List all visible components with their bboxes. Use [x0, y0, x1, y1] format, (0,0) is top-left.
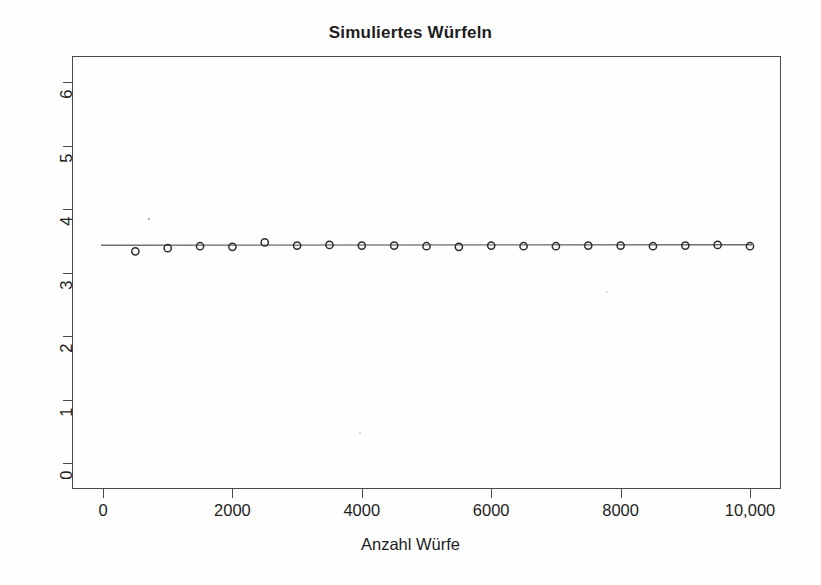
x-tick-mark: [621, 489, 622, 498]
x-tick-mark: [750, 489, 751, 498]
data-point-marker: [682, 242, 689, 249]
data-point-marker: [746, 243, 753, 250]
reference-line: [101, 245, 752, 246]
scan-artifact-speck: [359, 432, 361, 434]
x-tick-mark: [491, 489, 492, 498]
x-tick-mark: [362, 489, 363, 498]
x-tick-label: 8000: [602, 502, 639, 519]
y-tick-label: 0: [58, 463, 75, 487]
y-tick-label: 3: [58, 273, 75, 297]
y-tick-label: 4: [58, 209, 75, 233]
y-tick-label: 1: [58, 400, 75, 424]
data-point-marker: [585, 242, 592, 249]
y-tick-label: 6: [58, 82, 75, 106]
y-tick-label: 2: [58, 336, 75, 360]
data-point-marker: [552, 243, 559, 250]
x-tick-label: 4000: [343, 502, 380, 519]
x-tick-mark: [103, 489, 104, 498]
data-point-marker: [229, 243, 236, 250]
scan-artifact-speck: [606, 291, 608, 293]
data-point-marker: [196, 243, 203, 250]
page-title: Simuliertes Würfeln: [0, 23, 821, 43]
chart-page: Simuliertes Würfeln 0123456 020004000600…: [0, 0, 821, 585]
x-tick-mark: [232, 489, 233, 498]
data-point-marker: [132, 248, 139, 255]
x-tick-label: 0: [98, 502, 107, 519]
x-tick-label: 6000: [473, 502, 510, 519]
x-tick-label: 2000: [214, 502, 251, 519]
y-tick-label: 5: [58, 146, 75, 170]
data-series-group: [101, 239, 754, 255]
data-point-marker: [423, 243, 430, 250]
plot-canvas: [72, 56, 781, 489]
data-point-marker: [617, 242, 624, 249]
x-axis-title: Anzahl Würfe: [0, 535, 821, 554]
scan-artifact-speck: [148, 218, 150, 220]
data-point-marker: [649, 243, 656, 250]
plot-area: 0123456 0200040006000800010,000: [72, 56, 781, 489]
data-point-marker: [520, 243, 527, 250]
x-tick-label: 10,000: [725, 502, 775, 519]
